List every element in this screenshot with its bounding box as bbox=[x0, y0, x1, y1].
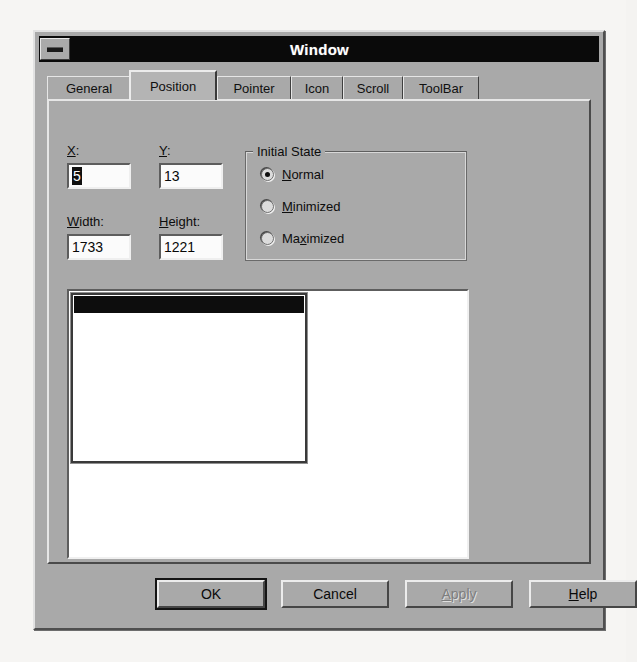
x-label-mnemonic: X bbox=[67, 143, 76, 158]
radio-maximized-label-rest: imized bbox=[307, 231, 345, 246]
apply-button-label: pply bbox=[451, 586, 477, 602]
radio-minimized-mnemonic: M bbox=[282, 199, 293, 214]
tab-strip: General Position Pointer Icon Scroll Too… bbox=[47, 70, 591, 100]
preview-mini-window[interactable] bbox=[71, 293, 307, 463]
system-menu-box-icon[interactable] bbox=[40, 38, 70, 60]
tab-general[interactable]: General bbox=[47, 76, 131, 100]
radio-maximized-label-pre: Ma bbox=[282, 231, 300, 246]
radio-maximized-indicator[interactable] bbox=[261, 232, 274, 245]
cancel-button-label: Cancel bbox=[313, 586, 357, 602]
width-input-value: 1733 bbox=[72, 239, 103, 255]
height-input[interactable]: 1221 bbox=[159, 234, 223, 260]
dialog-button-row: OK Cancel Apply Help bbox=[47, 574, 591, 618]
radio-normal-indicator[interactable] bbox=[261, 168, 274, 181]
y-input-value: 13 bbox=[164, 168, 180, 184]
radio-maximized-label: Maximized bbox=[282, 231, 344, 246]
height-label-mnemonic: H bbox=[159, 214, 168, 229]
radio-normal-mnemonic: N bbox=[282, 167, 291, 182]
ok-button[interactable]: OK bbox=[157, 580, 265, 608]
y-input[interactable]: 13 bbox=[159, 163, 223, 189]
x-label-suffix: : bbox=[76, 143, 80, 158]
radio-minimized-indicator[interactable] bbox=[261, 200, 274, 213]
radio-minimized-label: Minimized bbox=[282, 199, 341, 214]
tab-pointer[interactable]: Pointer bbox=[217, 76, 291, 100]
window-title: Window bbox=[70, 41, 569, 58]
preview-mini-window-titlebar bbox=[74, 296, 304, 313]
width-label-mnemonic: W bbox=[67, 214, 79, 229]
radio-normal-label: Normal bbox=[282, 167, 324, 182]
height-label-suffix: eight: bbox=[168, 214, 200, 229]
help-button-mnemonic: H bbox=[569, 586, 579, 602]
tab-scroll[interactable]: Scroll bbox=[343, 76, 403, 100]
radio-normal-label-rest: ormal bbox=[291, 167, 324, 182]
x-input-value: 5 bbox=[72, 167, 82, 185]
system-menu-dash bbox=[47, 47, 63, 52]
tab-toolbar[interactable]: ToolBar bbox=[403, 76, 479, 100]
titlebar: Window bbox=[39, 36, 599, 62]
width-input[interactable]: 1733 bbox=[67, 234, 131, 260]
radio-maximized[interactable]: Maximized bbox=[261, 231, 344, 246]
window-properties-dialog: Window General Position Pointer Icon Scr… bbox=[33, 30, 605, 630]
x-label: X: bbox=[67, 143, 79, 158]
radio-normal[interactable]: Normal bbox=[261, 167, 324, 182]
cancel-button[interactable]: Cancel bbox=[281, 580, 389, 608]
y-label: Y: bbox=[159, 143, 171, 158]
apply-button-mnemonic: A bbox=[441, 586, 450, 602]
position-tab-page: X: 5 Y: 13 Width: 1733 Height: 1221 Init… bbox=[47, 99, 591, 564]
help-button[interactable]: Help bbox=[529, 580, 637, 608]
tab-position[interactable]: Position bbox=[129, 70, 217, 100]
height-input-value: 1221 bbox=[164, 239, 195, 255]
width-label: Width: bbox=[67, 214, 104, 229]
x-input[interactable]: 5 bbox=[67, 163, 131, 189]
radio-minimized[interactable]: Minimized bbox=[261, 199, 341, 214]
height-label: Height: bbox=[159, 214, 200, 229]
y-label-suffix: : bbox=[167, 143, 171, 158]
ok-button-label: OK bbox=[201, 586, 221, 602]
width-label-suffix: idth: bbox=[79, 214, 104, 229]
window-position-preview[interactable] bbox=[67, 289, 469, 559]
y-label-mnemonic: Y bbox=[159, 143, 167, 158]
radio-minimized-label-rest: inimized bbox=[293, 199, 341, 214]
initial-state-legend: Initial State bbox=[253, 144, 325, 159]
apply-button: Apply bbox=[405, 580, 513, 608]
tab-icon[interactable]: Icon bbox=[291, 76, 343, 100]
help-button-label: elp bbox=[579, 586, 598, 602]
